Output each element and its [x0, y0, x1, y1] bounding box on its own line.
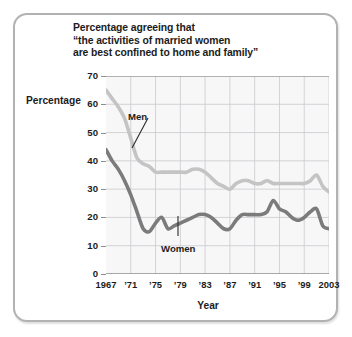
y-tick-label: 0 — [72, 268, 98, 279]
x-tick-label: ’79 — [174, 279, 187, 290]
y-tick-label: 10 — [72, 240, 98, 251]
y-tick-mark — [101, 104, 106, 105]
y-tick-label: 40 — [72, 155, 98, 166]
plot-svg — [106, 76, 329, 274]
y-tick-mark — [101, 161, 106, 162]
x-tick-label: ’75 — [149, 279, 162, 290]
chart-title-line-1: Percentage agreeing that — [73, 22, 323, 35]
series-annotation-women: Women — [161, 243, 195, 254]
y-tick-label: 30 — [72, 183, 98, 194]
plot-background — [106, 76, 329, 274]
y-tick-mark — [101, 189, 106, 190]
plot-area — [106, 76, 329, 274]
series-annotation-men: Men — [128, 111, 147, 122]
chart-figure: Percentage agreeing that “the activities… — [0, 0, 352, 337]
chart-title-line-2: “the activities of married women — [73, 35, 323, 48]
y-tick-mark — [101, 217, 106, 218]
x-tick-label: ’95 — [273, 279, 286, 290]
chart-title: Percentage agreeing that “the activities… — [73, 22, 323, 60]
x-tick-label: ’87 — [223, 279, 236, 290]
x-tick-label: ’99 — [298, 279, 311, 290]
x-tick-label: ’71 — [124, 279, 137, 290]
y-tick-mark — [101, 246, 106, 247]
x-tick-label: 2003 — [319, 279, 340, 290]
x-axis-title: Year — [0, 300, 352, 311]
y-tick-label: 20 — [72, 211, 98, 222]
x-tick-label: ’91 — [248, 279, 261, 290]
y-tick-label: 60 — [72, 98, 98, 109]
y-tick-mark — [101, 133, 106, 134]
y-tick-label: 50 — [72, 127, 98, 138]
y-tick-mark — [101, 76, 106, 77]
x-axis-title-text: Year — [197, 300, 219, 311]
y-tick-mark — [101, 274, 106, 275]
y-tick-label: 70 — [72, 70, 98, 81]
x-tick-label: 1967 — [96, 279, 117, 290]
x-tick-label: ’83 — [199, 279, 212, 290]
chart-title-line-3: are best confined to home and family” — [73, 47, 323, 60]
